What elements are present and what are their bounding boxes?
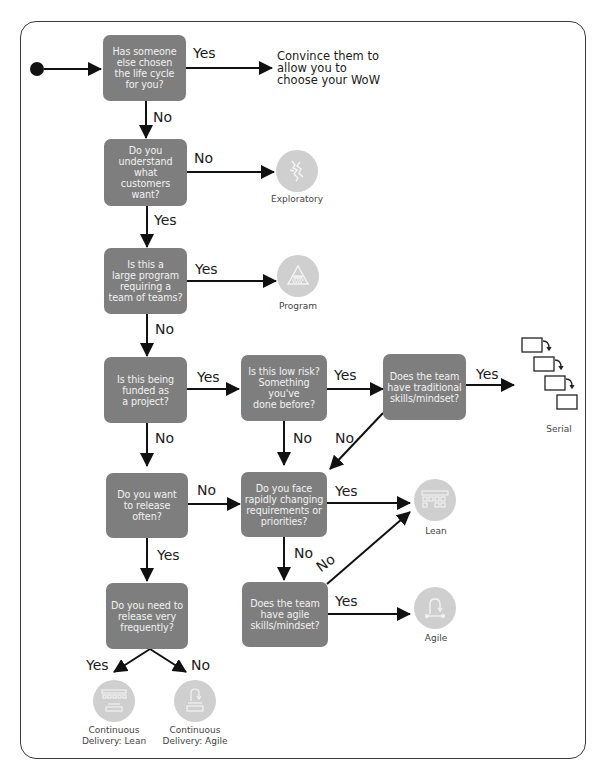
- outcome-label-agile: Agile: [415, 633, 457, 644]
- edge-label-yes: Yes: [86, 658, 109, 672]
- outcome-convince: Convince them to allow you to choose you…: [277, 50, 380, 86]
- edge-label-yes: Yes: [157, 548, 180, 562]
- edge-label-no: No: [155, 322, 174, 336]
- edge-d10-lean: [327, 512, 410, 584]
- edge-label-yes: Yes: [154, 213, 177, 227]
- decision-agile-skills: Does the team have agile skills/mindset?: [242, 582, 328, 647]
- edge-label-yes: Yes: [197, 370, 220, 384]
- edge-label-yes: Yes: [335, 594, 358, 608]
- serial-phases-icon: [519, 336, 581, 416]
- outcome-label-lean: Lean: [415, 526, 457, 537]
- edge-label-no: No: [191, 658, 210, 672]
- edge-label-no: No: [194, 151, 213, 165]
- lean-board-icon: [414, 479, 456, 521]
- outcome-label-exploratory: Exploratory: [262, 194, 332, 205]
- outcome-label-program: Program: [263, 301, 333, 312]
- edge-label-yes: Yes: [334, 368, 357, 382]
- edge-label-yes: Yes: [195, 262, 218, 276]
- decision-traditional-skills: Does the team have traditional skills/mi…: [383, 354, 466, 420]
- edge-label-no: No: [335, 431, 354, 445]
- decision-large-program: Is this a large program requiring a team…: [104, 248, 187, 314]
- cd-lean-icon: [93, 680, 135, 722]
- decision-low-risk: Is this low risk? Something you've done …: [241, 355, 327, 421]
- edge-label-no: No: [293, 431, 312, 445]
- edge-label-yes: Yes: [193, 46, 216, 60]
- edge-d9-cd-lean: [114, 649, 150, 672]
- start-node: [30, 62, 44, 76]
- edge-label-no: No: [155, 431, 174, 445]
- outcome-label-cd-agile: Continuous Delivery: Agile: [155, 725, 235, 747]
- exploratory-icon: [276, 150, 318, 192]
- edge-label-no: No: [153, 110, 172, 124]
- decision-release-often: Do you want to release often?: [106, 473, 188, 538]
- agile-cycle-icon: [414, 587, 456, 629]
- decision-release-very-frequently: Do you need to release very frequently?: [106, 583, 188, 649]
- cd-agile-icon: [174, 680, 216, 722]
- outcome-label-serial: Serial: [534, 424, 584, 435]
- edge-label-no: No: [197, 483, 216, 497]
- decision-funded-as-project: Is this being funded as a project?: [104, 357, 187, 423]
- decision-understand-customers: Do you understand what customers want?: [104, 139, 187, 206]
- decision-rapidly-changing: Do you face rapidly changing requirement…: [241, 472, 327, 537]
- edge-label-yes: Yes: [476, 367, 499, 381]
- outcome-label-cd-lean: Continuous Delivery: Lean: [74, 725, 154, 747]
- edge-label-no: No: [294, 546, 313, 560]
- decision-life-cycle-chosen: Has someone else chosen the life cycle f…: [103, 35, 186, 101]
- program-icon: [277, 255, 319, 297]
- edge-label-yes: Yes: [335, 484, 358, 498]
- edge-d9-cd-agile: [150, 649, 186, 672]
